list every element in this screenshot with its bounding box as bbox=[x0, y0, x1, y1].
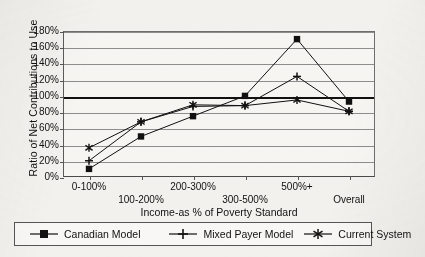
asterisk-marker-icon bbox=[303, 228, 333, 240]
chart-figure: Ratio of Net Contributions to Use Income… bbox=[0, 0, 425, 257]
y-tick-label: 100% bbox=[13, 91, 59, 101]
series-line bbox=[89, 39, 349, 169]
y-tick-label: 180% bbox=[13, 26, 59, 36]
legend-item-current-system[interactable]: Current System bbox=[303, 228, 411, 240]
x-tick-label: 0-100% bbox=[72, 181, 106, 192]
plus-marker-icon bbox=[168, 228, 198, 240]
series-line bbox=[89, 100, 349, 148]
data-point-square bbox=[190, 113, 196, 119]
data-point-square bbox=[346, 98, 352, 104]
y-tick-label: 140% bbox=[13, 58, 59, 68]
x-tick-label: 100-200% bbox=[118, 194, 164, 205]
y-tick-mark bbox=[60, 178, 64, 179]
y-tick-label: 40% bbox=[13, 140, 59, 150]
y-tick-label: 60% bbox=[13, 123, 59, 133]
x-tick-label: Overall bbox=[333, 194, 365, 205]
data-point-square bbox=[138, 133, 144, 139]
legend-label: Current System bbox=[338, 228, 411, 240]
y-tick-label: 0% bbox=[13, 172, 59, 182]
series-line bbox=[89, 76, 349, 160]
x-tick-label: 200-300% bbox=[170, 181, 216, 192]
series-current-system bbox=[85, 96, 352, 152]
legend-item-mixed-payer-model[interactable]: Mixed Payer Model bbox=[168, 228, 293, 240]
y-tick-label: 160% bbox=[13, 42, 59, 52]
y-tick-label: 20% bbox=[13, 156, 59, 166]
data-point-square bbox=[294, 36, 300, 42]
series-canadian-model bbox=[86, 36, 352, 172]
x-axis-title: Income-as % of Poverty Standard bbox=[63, 206, 375, 218]
y-tick-label: 120% bbox=[13, 75, 59, 85]
data-point-square bbox=[86, 166, 92, 172]
series-mixed-payer-model bbox=[85, 72, 353, 164]
x-tick-label: 300-500% bbox=[222, 194, 268, 205]
legend-label: Mixed Payer Model bbox=[203, 228, 293, 240]
square-marker-icon bbox=[29, 228, 59, 240]
chart-data-layer bbox=[63, 31, 375, 177]
y-tick-label: 80% bbox=[13, 107, 59, 117]
x-tick-label: 500%+ bbox=[281, 181, 312, 192]
chart-legend: Canadian Model Mixed Payer Model Current… bbox=[14, 222, 372, 246]
legend-label: Canadian Model bbox=[64, 228, 140, 240]
legend-item-canadian-model[interactable]: Canadian Model bbox=[29, 228, 140, 240]
data-point-square bbox=[242, 93, 248, 99]
